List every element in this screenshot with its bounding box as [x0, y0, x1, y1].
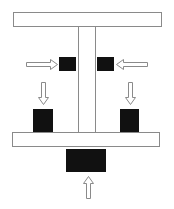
right-upper-block	[97, 57, 114, 71]
central-column	[79, 27, 96, 133]
bottom-center-block	[66, 149, 106, 172]
left-upper-block	[59, 57, 76, 71]
left-arrow-icon	[117, 60, 148, 70]
down-arrow-icon	[39, 83, 49, 105]
diagram-canvas	[0, 0, 174, 209]
right-arrow-icon	[27, 60, 58, 70]
right-lower-block	[120, 109, 139, 132]
left-lower-block	[33, 109, 53, 132]
down-arrow-icon	[126, 83, 136, 105]
bottom-plate	[13, 133, 160, 147]
up-arrow-icon	[84, 177, 94, 199]
top-beam	[14, 13, 162, 27]
